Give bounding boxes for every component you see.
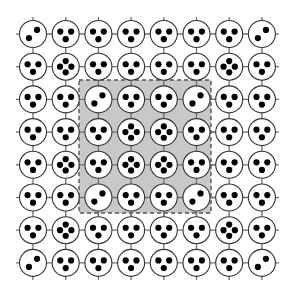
lattice-node[interactable] bbox=[118, 151, 145, 178]
node-dot-icon bbox=[123, 257, 129, 263]
lattice-node[interactable] bbox=[20, 119, 47, 146]
lattice-node[interactable] bbox=[118, 184, 145, 211]
lattice-node[interactable] bbox=[248, 184, 275, 211]
lattice-node[interactable] bbox=[248, 151, 275, 178]
lattice-node[interactable] bbox=[248, 119, 275, 146]
node-circle-icon bbox=[118, 21, 145, 48]
lattice-node[interactable] bbox=[248, 249, 275, 276]
node-dot-icon bbox=[155, 129, 161, 135]
lattice-node[interactable] bbox=[216, 151, 243, 178]
lattice-node[interactable] bbox=[20, 151, 47, 178]
lattice-node[interactable] bbox=[216, 119, 243, 146]
lattice-node[interactable] bbox=[85, 86, 112, 113]
lattice-node[interactable] bbox=[85, 119, 112, 146]
node-dot-icon bbox=[161, 265, 167, 271]
node-circle-icon bbox=[216, 53, 243, 80]
lattice-node[interactable] bbox=[20, 21, 47, 48]
lattice-node[interactable] bbox=[248, 21, 275, 48]
node-dot-icon bbox=[161, 36, 167, 42]
node-dot-icon bbox=[166, 94, 172, 100]
lattice-node[interactable] bbox=[52, 119, 79, 146]
node-dot-icon bbox=[63, 265, 69, 271]
lattice-node[interactable] bbox=[183, 217, 210, 244]
node-dot-icon bbox=[30, 101, 36, 107]
lattice-node[interactable] bbox=[150, 53, 177, 80]
node-dot-icon bbox=[263, 27, 269, 33]
lattice-node[interactable] bbox=[20, 53, 47, 80]
lattice-node[interactable] bbox=[85, 184, 112, 211]
lattice-node[interactable] bbox=[118, 86, 145, 113]
lattice-node[interactable] bbox=[216, 249, 243, 276]
node-circle-icon bbox=[216, 119, 243, 146]
lattice-node[interactable] bbox=[118, 21, 145, 48]
lattice-node[interactable] bbox=[216, 53, 243, 80]
node-dot-icon bbox=[95, 36, 101, 42]
lattice-node[interactable] bbox=[52, 217, 79, 244]
lattice-node[interactable] bbox=[20, 86, 47, 113]
node-dot-icon bbox=[57, 257, 63, 263]
node-circle-icon bbox=[85, 184, 112, 211]
node-dot-icon bbox=[264, 192, 270, 198]
node-dot-icon bbox=[255, 35, 261, 41]
lattice-node[interactable] bbox=[20, 249, 47, 276]
node-dot-icon bbox=[128, 265, 134, 271]
lattice-node[interactable] bbox=[216, 86, 243, 113]
lattice-node[interactable] bbox=[52, 184, 79, 211]
node-dot-icon bbox=[123, 192, 129, 198]
lattice-node[interactable] bbox=[150, 86, 177, 113]
node-dot-icon bbox=[57, 127, 63, 133]
node-dot-icon bbox=[90, 61, 96, 67]
lattice-node[interactable] bbox=[248, 217, 275, 244]
lattice-node[interactable] bbox=[183, 151, 210, 178]
lattice-node[interactable] bbox=[52, 21, 79, 48]
lattice-node[interactable] bbox=[52, 86, 79, 113]
node-dot-icon bbox=[128, 135, 134, 141]
node-dot-icon bbox=[166, 28, 172, 34]
lattice-node[interactable] bbox=[118, 249, 145, 276]
lattice-node[interactable] bbox=[150, 249, 177, 276]
node-dot-icon bbox=[91, 100, 97, 106]
node-dot-icon bbox=[63, 233, 69, 239]
lattice-node[interactable] bbox=[85, 53, 112, 80]
lattice-node[interactable] bbox=[85, 217, 112, 244]
node-circle-icon bbox=[248, 119, 275, 146]
lattice-node[interactable] bbox=[52, 249, 79, 276]
lattice-node[interactable] bbox=[150, 151, 177, 178]
lattice-node[interactable] bbox=[183, 184, 210, 211]
node-dot-icon bbox=[128, 36, 134, 42]
node-dot-icon bbox=[57, 227, 63, 233]
lattice-node[interactable] bbox=[118, 217, 145, 244]
lattice-node[interactable] bbox=[183, 249, 210, 276]
lattice-node[interactable] bbox=[52, 53, 79, 80]
lattice-node[interactable] bbox=[150, 217, 177, 244]
node-dot-icon bbox=[226, 265, 232, 271]
node-dot-icon bbox=[199, 225, 205, 231]
lattice-node[interactable] bbox=[20, 184, 47, 211]
lattice-node[interactable] bbox=[118, 119, 145, 146]
lattice-node[interactable] bbox=[216, 21, 243, 48]
lattice-node[interactable] bbox=[20, 217, 47, 244]
node-circle-icon bbox=[20, 217, 47, 244]
lattice-node[interactable] bbox=[183, 119, 210, 146]
node-circle-icon bbox=[150, 119, 177, 146]
lattice-node[interactable] bbox=[216, 217, 243, 244]
node-circle-icon bbox=[248, 151, 275, 178]
lattice-node[interactable] bbox=[85, 249, 112, 276]
lattice-node[interactable] bbox=[150, 21, 177, 48]
lattice-node[interactable] bbox=[183, 53, 210, 80]
node-dot-icon bbox=[197, 92, 203, 98]
lattice-node[interactable] bbox=[85, 151, 112, 178]
lattice-node[interactable] bbox=[118, 53, 145, 80]
node-dot-icon bbox=[101, 225, 107, 231]
lattice-node[interactable] bbox=[52, 151, 79, 178]
lattice-node[interactable] bbox=[150, 119, 177, 146]
node-dot-icon bbox=[34, 27, 40, 33]
lattice-node[interactable] bbox=[216, 184, 243, 211]
lattice-node[interactable] bbox=[248, 86, 275, 113]
node-dot-icon bbox=[25, 94, 31, 100]
lattice-node[interactable] bbox=[248, 53, 275, 80]
lattice-node[interactable] bbox=[85, 21, 112, 48]
lattice-node[interactable] bbox=[183, 86, 210, 113]
lattice-node[interactable] bbox=[150, 184, 177, 211]
lattice-node[interactable] bbox=[183, 21, 210, 48]
